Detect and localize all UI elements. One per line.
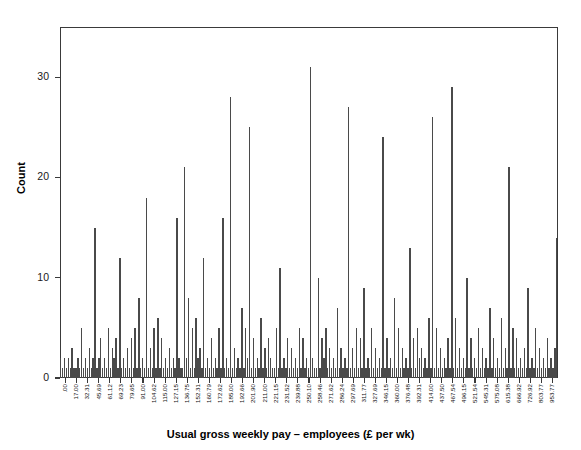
x-tick-label: 327.69 [372,384,378,403]
x-tick-mark [131,378,132,383]
x-tick-mark [297,378,298,383]
x-tick-mark [530,378,531,383]
x-tick-label: 286.24 [339,384,345,403]
x-tick-mark [486,378,487,383]
chart-root: 0102030 Count .0017.0032.3145.6961.1269.… [0,0,581,450]
x-tick-mark [452,378,453,383]
x-tick-label: 211.00 [262,384,268,402]
x-tick-label: 32.31 [84,384,90,399]
x-tick-mark [331,378,332,383]
x-tick-label: 136.75 [184,384,190,403]
histogram-bar [119,258,120,378]
x-tick-mark [220,378,221,383]
histogram-bar [527,288,528,378]
x-tick-label: 250.10 [306,384,312,403]
x-tick-label: 346.15 [383,384,389,403]
x-tick-mark [419,378,420,383]
x-tick-label: 192.66 [239,384,245,403]
x-tick-label: 726.92 [527,384,533,403]
y-tick-mark [55,177,60,178]
histogram-bar [382,137,383,378]
x-tick-mark [441,378,442,383]
x-tick-label: 414.00 [428,384,434,403]
x-tick-mark [154,378,155,383]
x-tick-label: 79.65 [129,384,135,399]
x-tick-label: 545.31 [483,384,489,403]
histogram-bar [466,278,467,378]
x-tick-label: 61.12 [107,384,113,399]
histogram-bar [394,298,395,378]
histogram-bar [222,218,223,378]
histogram-bar [146,198,147,379]
x-tick-label: 91.00 [140,384,146,399]
x-tick-mark [320,378,321,383]
x-tick-mark [386,378,387,383]
x-tick-mark [165,378,166,383]
x-tick-mark [552,378,553,383]
x-tick-label: 575.08 [494,384,500,403]
x-tick-mark [98,378,99,383]
x-tick-label: 127.15 [173,384,179,403]
x-tick-label: 311.77 [361,384,367,402]
x-tick-mark [408,378,409,383]
x-tick-mark [364,378,365,383]
x-tick-label: 271.62 [328,384,334,403]
x-tick-label: 45.69 [96,384,102,399]
x-tick-mark [65,378,66,383]
x-tick-mark [342,378,343,383]
y-axis-title: Count [15,148,27,208]
x-tick-label: 615.38 [505,384,511,403]
x-tick-label: 437.50 [439,384,445,403]
y-tick-label: 30 [23,71,49,82]
x-tick-label: 160.79 [206,384,212,403]
x-tick-mark [87,378,88,383]
x-tick-label: 297.69 [350,384,356,403]
histogram-bar [188,298,189,378]
x-tick-mark [308,378,309,383]
histogram-bar [451,87,452,378]
x-tick-label: 392.31 [416,384,422,403]
x-tick-mark [231,378,232,383]
histogram-bar [363,288,364,378]
histogram-bar [279,268,280,378]
x-tick-mark [286,378,287,383]
x-tick-mark [508,378,509,383]
x-tick-label: 360.00 [394,384,400,403]
x-tick-label: 115.00 [162,384,168,402]
histogram-bar [138,298,139,378]
y-tick-label: 0 [23,372,49,383]
x-tick-label: 803.77 [538,384,544,403]
x-tick-mark [253,378,254,383]
histogram-bar [230,97,231,378]
histogram-bar [409,248,410,378]
histogram-bar [508,167,509,378]
x-tick-mark [519,378,520,383]
bars-layer [60,27,558,378]
x-tick-mark [397,378,398,383]
y-tick-mark [55,77,60,78]
x-tick-label: 185.00 [228,384,234,403]
x-tick-mark [120,378,121,383]
x-tick-mark [497,378,498,383]
x-tick-mark [209,378,210,383]
x-tick-mark [474,378,475,383]
x-tick-label: 496.15 [461,384,467,403]
x-tick-label: 521.54 [472,384,478,403]
x-tick-label: 376.48 [405,384,411,403]
x-tick-label: 239.88 [295,384,301,403]
x-tick-label: 152.31 [195,384,201,403]
x-tick-mark [430,378,431,383]
x-tick-label: 172.62 [217,384,223,403]
histogram-bar [94,228,95,378]
histogram-bar [249,127,250,378]
histogram-bar [176,218,177,378]
histogram-bar [203,258,204,378]
x-tick-label: 104.62 [151,384,157,403]
x-tick-label: .00 [62,384,68,393]
histogram-bar [432,117,433,378]
x-tick-mark [109,378,110,383]
histogram-bar [348,107,349,378]
x-tick-mark [264,378,265,383]
x-tick-label: 467.54 [450,384,456,403]
histogram-bar [184,167,185,378]
